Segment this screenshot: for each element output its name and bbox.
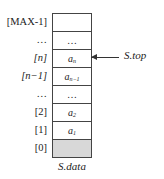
stack-cell-n: an xyxy=(53,50,91,68)
stack-cell-1: a1 xyxy=(53,122,91,140)
index-label-max-1: [MAX-1] xyxy=(0,13,47,31)
stack-cell-0-shaded xyxy=(53,140,91,158)
cell-subscript: n−1 xyxy=(69,76,79,82)
index-label-ellipsis-bottom: … xyxy=(0,85,47,103)
cell-value: … xyxy=(67,89,77,100)
cell-subscript: 2 xyxy=(73,112,76,118)
stack-cell-max-1 xyxy=(53,14,91,32)
index-label-ellipsis-top: … xyxy=(0,31,47,49)
index-label-n: [n] xyxy=(0,49,47,67)
stack-cell-n-minus-1: an−1 xyxy=(53,68,91,86)
cell-value: … xyxy=(67,35,77,46)
stack-cell-ellipsis-top: … xyxy=(53,32,91,50)
top-pointer-label: S.top xyxy=(124,49,146,61)
stack-cell-ellipsis-bottom: … xyxy=(53,86,91,104)
index-label-n-minus-1: [n−1] xyxy=(0,67,47,85)
index-label-0: [0] xyxy=(0,139,47,157)
array-caption: S.data xyxy=(52,160,92,172)
index-label-1: [1] xyxy=(0,121,47,139)
stack-array: … an an−1 … a2 a1 xyxy=(52,13,92,158)
cell-subscript: n xyxy=(73,58,76,64)
stack-cell-2: a2 xyxy=(53,104,91,122)
top-pointer-arrow-icon xyxy=(91,57,119,58)
index-label-2: [2] xyxy=(0,103,47,121)
cell-subscript: 1 xyxy=(73,130,76,136)
